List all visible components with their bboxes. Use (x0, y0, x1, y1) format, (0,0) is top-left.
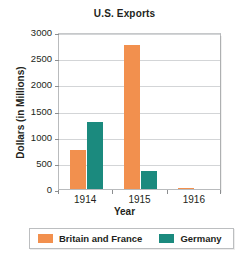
x-tick-label-1915: 1915 (113, 195, 167, 205)
bar-1915-britain-and-france (124, 45, 140, 189)
plot-area (58, 33, 221, 190)
legend-label: Germany (180, 233, 221, 244)
x-tick-label-1916: 1916 (167, 195, 221, 205)
x-tick-mark (220, 190, 221, 194)
x-tick-mark (58, 190, 59, 194)
x-axis-title: Year (0, 206, 249, 217)
y-tick-label: 3000 (6, 28, 52, 38)
legend-label: Britain and France (59, 233, 142, 244)
bar-1916-britain-and-france (178, 188, 194, 190)
legend-swatch-icon (38, 234, 53, 243)
y-tick-mark (55, 113, 59, 114)
y-tick-label: 2500 (6, 54, 52, 64)
gridline (59, 34, 220, 35)
y-tick-label: 0 (6, 185, 52, 195)
y-tick-mark (55, 34, 59, 35)
y-tick-mark (55, 139, 59, 140)
x-tick-mark (167, 190, 168, 194)
bar-1914-germany (87, 122, 103, 189)
chart-figure: U.S. Exports Dollars (in Millions) 05001… (0, 0, 249, 257)
bar-1914-britain-and-france (70, 150, 86, 189)
y-tick-label: 2000 (6, 80, 52, 90)
legend-entry-germany[interactable]: Germany (142, 229, 221, 248)
chart-legend: Britain and FranceGermany (29, 228, 234, 249)
y-tick-label: 1500 (6, 107, 52, 117)
legend-swatch-icon (159, 234, 174, 243)
y-tick-mark (55, 60, 59, 61)
y-tick-mark (55, 86, 59, 87)
y-tick-mark (55, 165, 59, 166)
x-tick-label-1914: 1914 (58, 195, 112, 205)
legend-entry-britain-and-france[interactable]: Britain and France (30, 229, 142, 248)
y-tick-label: 500 (6, 159, 52, 169)
chart-title: U.S. Exports (0, 8, 249, 19)
x-tick-mark (112, 190, 113, 194)
bar-1915-germany (141, 171, 157, 189)
y-tick-label: 1000 (6, 133, 52, 143)
